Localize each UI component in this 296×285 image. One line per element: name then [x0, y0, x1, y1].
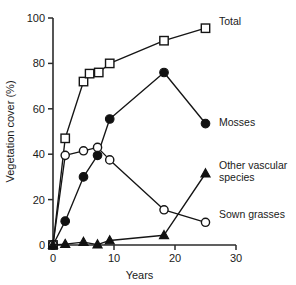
data-point-other-vascular-species — [159, 230, 168, 238]
series-mosses — [49, 68, 210, 249]
data-point-mosses — [105, 115, 114, 124]
y-tick-label: 0 — [39, 239, 45, 251]
data-point-mosses — [201, 119, 210, 128]
data-point-total — [85, 69, 93, 77]
data-point-sown-grasses — [61, 151, 69, 159]
data-point-total — [160, 37, 168, 45]
series-line-mosses — [53, 72, 206, 245]
x-tick-label: 0 — [50, 252, 56, 264]
plot-area: 0204060801000102030YearsVegetation cover… — [0, 0, 296, 285]
series-line-total — [53, 28, 206, 245]
data-point-total — [61, 134, 69, 142]
series-sown-grasses — [49, 143, 210, 249]
y-tick-label: 100 — [27, 12, 45, 24]
x-tick-label: 30 — [230, 252, 242, 264]
data-point-mosses — [93, 151, 102, 160]
series-line-other-vascular-species — [53, 174, 206, 246]
y-axis-title: Vegetation cover (%) — [4, 80, 16, 182]
data-point-mosses — [79, 173, 88, 182]
legend-label-mosses: Mosses — [219, 117, 255, 129]
x-tick-label: 10 — [108, 252, 120, 264]
data-point-total — [201, 24, 209, 32]
data-point-mosses — [160, 68, 169, 77]
x-tick-label: 20 — [169, 252, 181, 264]
legend-label-sown-grasses: Sown grasses — [219, 209, 285, 221]
axes — [48, 18, 236, 250]
data-point-sown-grasses — [93, 143, 101, 151]
series-total — [49, 24, 210, 249]
axis-labels: 0204060801000102030YearsVegetation cover… — [4, 12, 242, 281]
legend-text-total: Total — [219, 15, 241, 27]
data-point-sown-grasses — [79, 147, 87, 155]
y-tick-label: 80 — [33, 57, 45, 69]
y-tick-label: 40 — [33, 148, 45, 160]
data-point-sown-grasses — [106, 156, 114, 164]
vegetation-cover-chart: 0204060801000102030YearsVegetation cover… — [0, 0, 296, 285]
data-point-total — [79, 77, 87, 85]
legend-label-total: Total — [219, 16, 241, 28]
data-point-total — [95, 68, 103, 76]
data-point-other-vascular-species — [201, 169, 210, 177]
legend-text-other-vascular-line1: Other vascular — [219, 159, 287, 171]
data-point-mosses — [61, 217, 70, 226]
legend-text-sown-grasses: Sown grasses — [219, 208, 285, 220]
legend-text-mosses: Mosses — [219, 116, 255, 128]
data-point-other-vascular-species — [79, 237, 88, 245]
data-point-sown-grasses — [201, 218, 209, 226]
data-point-total — [106, 59, 114, 67]
y-tick-label: 60 — [33, 103, 45, 115]
data-point-sown-grasses — [160, 206, 168, 214]
data-series — [48, 24, 210, 249]
legend-text-other-vascular-line2: species — [219, 171, 255, 183]
x-axis-title: Years — [126, 269, 154, 281]
legend-label-other-vascular-species: Other vascular species — [219, 160, 287, 183]
y-tick-label: 20 — [33, 194, 45, 206]
series-other-vascular-species — [48, 169, 210, 249]
